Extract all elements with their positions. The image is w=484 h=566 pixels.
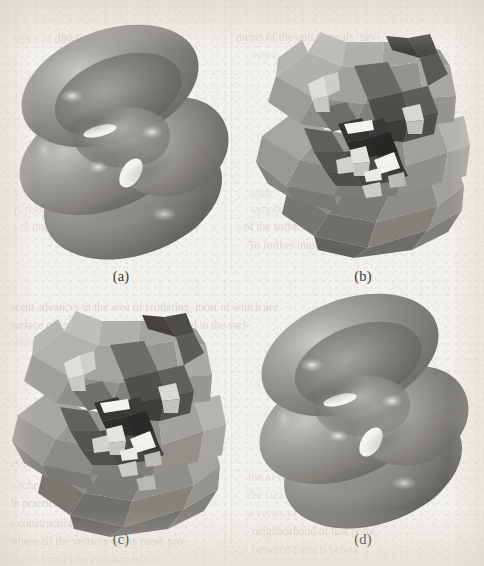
panel-d-render [242,283,484,566]
panel-c: (c) [0,283,242,566]
panel-c-render [0,283,242,566]
panel-b: (b) [242,0,484,283]
panel-d: (d) [242,283,484,566]
panel-b-render [242,0,484,283]
panel-d-caption: (d) [242,531,484,548]
figure-root: terior of the sur-interior of the sur-me… [0,0,484,566]
panel-a-render [0,0,242,283]
panel-c-caption: (c) [0,531,242,548]
panel-a: (a) [0,0,242,283]
